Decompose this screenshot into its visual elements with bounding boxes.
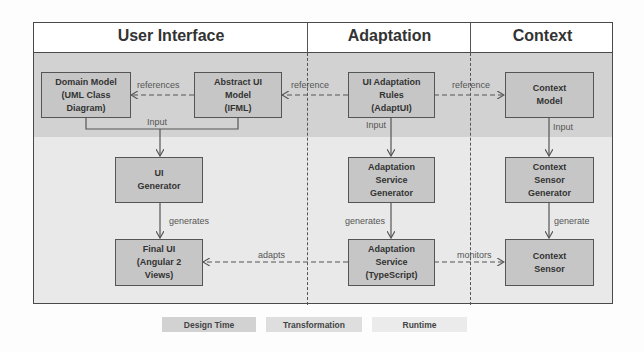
final-ui-box: Final UI (Angular 2 Views) bbox=[115, 239, 203, 286]
edge-label-generate: generate bbox=[554, 216, 590, 226]
edge-label-reference: reference bbox=[452, 80, 490, 90]
context-model-box: Context Model bbox=[505, 72, 594, 118]
legend-design-time: Design Time bbox=[162, 317, 256, 332]
context-sensor-generator-box: Context Sensor Generator bbox=[505, 157, 594, 203]
legend-runtime: Runtime bbox=[372, 317, 467, 332]
legend-transformation: Transformation bbox=[266, 317, 362, 332]
edge-label-input: Input bbox=[147, 117, 167, 127]
context-sensor-box: Context Sensor bbox=[505, 239, 594, 286]
edge-label-input: Input bbox=[366, 120, 386, 130]
edge-label-reference: reference bbox=[291, 80, 329, 90]
edge-label-references: references bbox=[137, 80, 180, 90]
edge-label-monitors: monitors bbox=[457, 250, 492, 260]
domain-model-box: Domain Model (UML Class Diagram) bbox=[41, 72, 131, 118]
edge-label-adapts: adapts bbox=[258, 250, 285, 260]
ui-adaptation-rules-box: UI Adaptation Rules (AdaptUI) bbox=[348, 72, 435, 118]
edge-label-generates: generates bbox=[169, 216, 209, 226]
ui-generator-box: UI Generator bbox=[115, 157, 203, 203]
abstract-ui-model-box: Abstract UI Model (IFML) bbox=[194, 72, 282, 118]
adaptation-service-generator-box: Adaptation Service Generator bbox=[348, 157, 435, 203]
edge-label-input: Input bbox=[553, 122, 573, 132]
adaptation-service-box: Adaptation Service (TypeScript) bbox=[348, 239, 435, 286]
edge-label-generates: generates bbox=[345, 216, 385, 226]
